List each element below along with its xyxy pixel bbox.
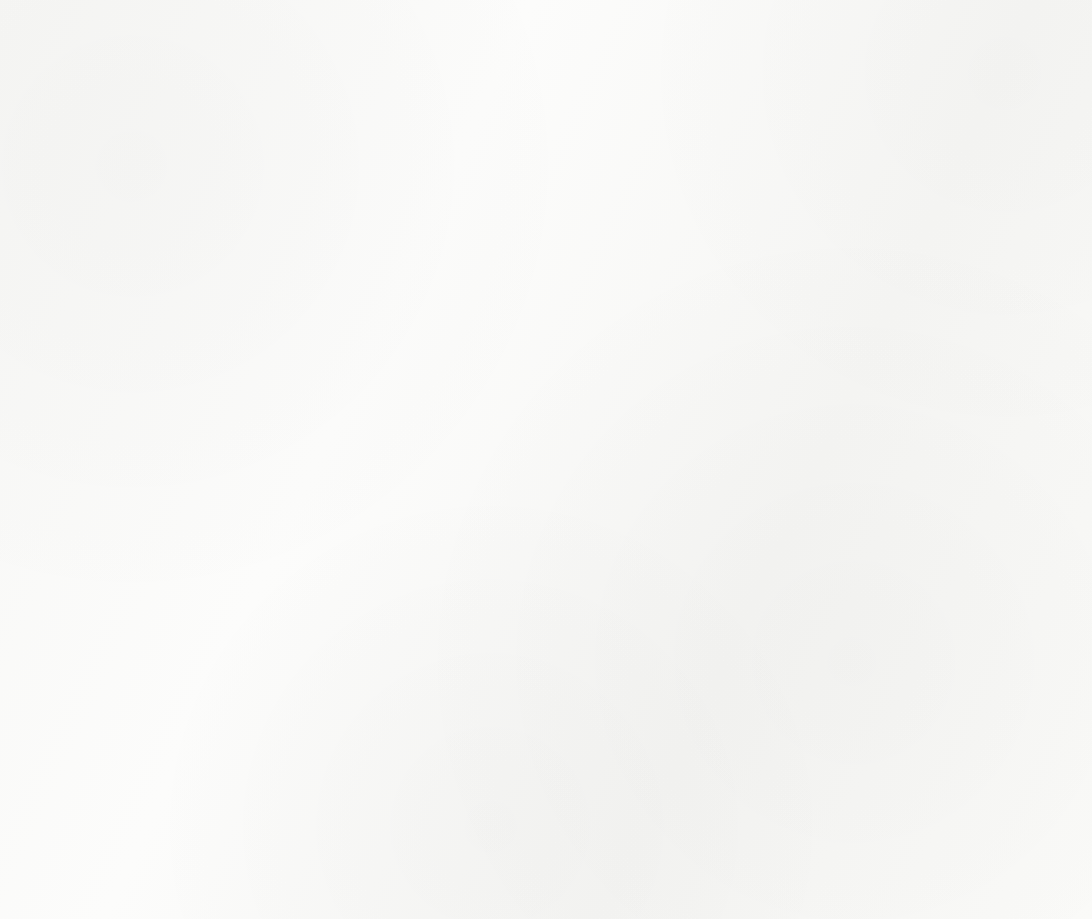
plot-area	[0, 0, 1092, 919]
supply-curve-figure: £s per mile P 500 375 250 125 0 0 1,000 …	[0, 0, 1092, 919]
